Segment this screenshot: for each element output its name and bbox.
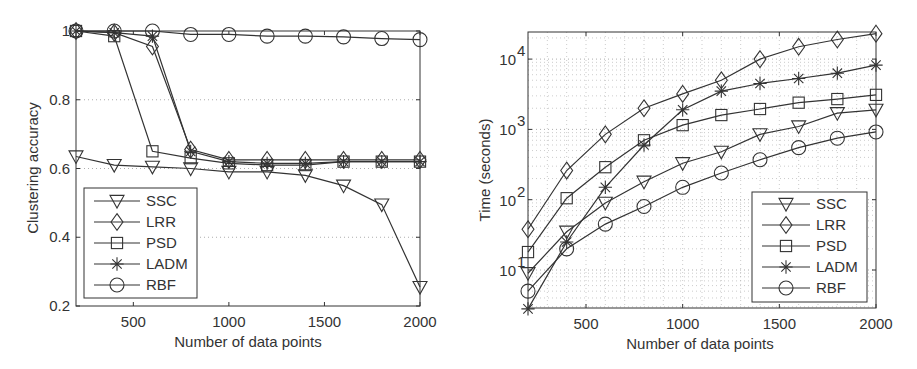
asterisk-marker-icon bbox=[715, 85, 728, 98]
legend-label: LRR bbox=[146, 213, 176, 230]
y-tick-label: 0.6 bbox=[49, 160, 70, 177]
x-tick-label: 1500 bbox=[308, 313, 341, 330]
series-psd bbox=[70, 25, 425, 170]
x-tick-label: 2000 bbox=[403, 313, 436, 330]
legend-label: RBF bbox=[816, 279, 846, 296]
accuracy-chart: 0.20.40.60.81500100015002000 Clustering … bbox=[24, 22, 437, 350]
x-tick-label: 1000 bbox=[666, 315, 699, 332]
triangle-marker-icon bbox=[753, 129, 767, 142]
asterisk-marker-icon bbox=[869, 59, 882, 72]
x-tick-label: 500 bbox=[121, 313, 146, 330]
asterisk-marker-icon bbox=[676, 103, 689, 116]
legend-label: PSD bbox=[816, 237, 847, 254]
asterisk-marker-icon bbox=[521, 302, 534, 315]
asterisk-marker-icon bbox=[753, 77, 766, 90]
asterisk-marker-icon bbox=[260, 157, 273, 170]
y-tick-label: 0.4 bbox=[49, 228, 70, 245]
x-tick-label: 1500 bbox=[763, 315, 796, 332]
asterisk-marker-icon bbox=[599, 181, 612, 194]
legend-label: SSC bbox=[146, 192, 177, 209]
asterisk-marker-icon bbox=[299, 157, 312, 170]
y-tick-label: 10 bbox=[499, 121, 516, 138]
triangle-marker-icon bbox=[337, 180, 351, 193]
right-legend: SSCLRRPSDLADMRBF bbox=[752, 192, 867, 302]
y-tick-label: 10 bbox=[499, 262, 516, 279]
legend-label: SSC bbox=[816, 195, 847, 212]
x-tick-label: 500 bbox=[573, 315, 598, 332]
asterisk-marker-icon bbox=[375, 155, 388, 168]
asterisk-marker-icon bbox=[222, 155, 235, 168]
left-x-axis-label: Number of data points bbox=[174, 333, 322, 350]
asterisk-marker-icon bbox=[779, 260, 792, 273]
legend-label: RBF bbox=[146, 276, 176, 293]
y-tick-exponent: 3 bbox=[517, 112, 525, 129]
x-tick-label: 2000 bbox=[859, 315, 892, 332]
left-legend: SSCLRRPSDLADMRBF bbox=[84, 188, 197, 298]
triangle-marker-icon bbox=[298, 170, 312, 183]
time-chart: 101102103104500100015002000 Time (second… bbox=[476, 25, 893, 352]
legend-label: LADM bbox=[816, 258, 858, 275]
asterisk-marker-icon bbox=[184, 145, 197, 158]
asterisk-marker-icon bbox=[637, 138, 650, 151]
y-tick-exponent: 4 bbox=[517, 42, 525, 59]
legend-label: PSD bbox=[146, 234, 177, 251]
right-y-axis-label: Time (seconds) bbox=[476, 119, 493, 222]
legend-label: LADM bbox=[146, 255, 188, 272]
asterisk-marker-icon bbox=[108, 26, 121, 39]
x-tick-label: 1000 bbox=[212, 313, 245, 330]
y-tick-label: 10 bbox=[499, 51, 516, 68]
right-x-axis-label: Number of data points bbox=[626, 335, 774, 352]
asterisk-marker-icon bbox=[413, 155, 426, 168]
legend-label: LRR bbox=[816, 216, 846, 233]
series-ladm bbox=[69, 24, 426, 170]
y-tick-exponent: 2 bbox=[517, 183, 525, 200]
y-tick-label: 10 bbox=[499, 192, 516, 209]
asterisk-marker-icon bbox=[792, 72, 805, 85]
asterisk-marker-icon bbox=[110, 257, 123, 270]
triangle-marker-icon bbox=[830, 108, 844, 121]
asterisk-marker-icon bbox=[337, 155, 350, 168]
series-lrr bbox=[70, 23, 426, 169]
y-tick-label: 0.2 bbox=[49, 297, 70, 314]
triangle-marker-icon bbox=[637, 176, 651, 189]
y-tick-label: 0.8 bbox=[49, 91, 70, 108]
asterisk-marker-icon bbox=[831, 67, 844, 80]
left-y-axis-label: Clustering accuracy bbox=[24, 102, 41, 234]
